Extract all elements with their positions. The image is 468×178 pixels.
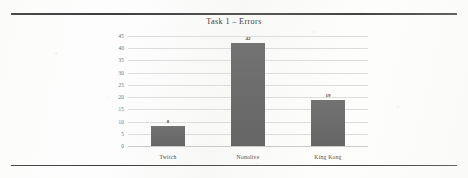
bar-value-label: 19 [326, 93, 331, 98]
y-axis-tick-label: 45 [118, 33, 124, 39]
bottom-horizontal-rule [11, 165, 457, 166]
y-axis-tick-label: 20 [118, 94, 124, 100]
y-axis-tick-label: 0 [121, 143, 124, 149]
y-axis-tick-label: 40 [118, 45, 124, 51]
document-page: Task 1 – Errors 454035302520151050 8Twit… [0, 0, 468, 178]
y-axis-tick-label: 30 [118, 70, 124, 76]
y-axis-tick-label: 5 [121, 131, 124, 137]
y-axis-tick-label: 35 [118, 57, 124, 63]
top-horizontal-rule [11, 13, 457, 15]
bar-value-label: 8 [167, 119, 170, 124]
x-axis-category-label: Twitch [160, 154, 177, 160]
x-axis-category-label: Nonolive [237, 154, 260, 160]
chart-title: Task 1 – Errors [0, 17, 468, 26]
gridline [128, 146, 368, 147]
y-axis-tick-label: 10 [118, 119, 124, 125]
bar: 19King Kong [311, 100, 345, 146]
y-axis-tick-label: 25 [118, 82, 124, 88]
bar-value-label: 42 [246, 36, 251, 41]
bar: 8Twitch [151, 126, 185, 146]
bar: 42Nonolive [231, 43, 265, 146]
y-axis-tick-label: 15 [118, 106, 124, 112]
bar-chart-plot-area: 454035302520151050 8Twitch42Nonolive19Ki… [128, 36, 368, 146]
x-axis-category-label: King Kong [314, 154, 341, 160]
